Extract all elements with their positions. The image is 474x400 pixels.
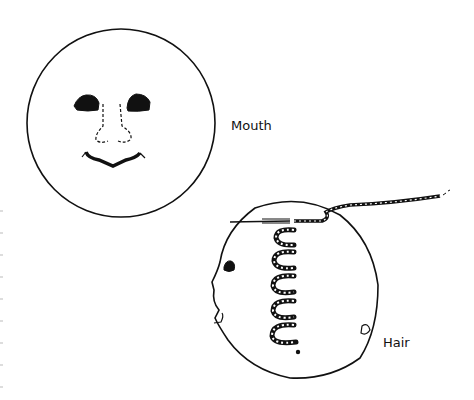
caption-hair: Hair	[383, 335, 410, 350]
side-head-figure	[212, 190, 450, 378]
nose-outline	[96, 104, 131, 142]
caption-mouth: Mouth	[231, 118, 272, 133]
scan-edge-artifact	[0, 200, 3, 400]
mouth-stitch	[86, 152, 140, 166]
right-eye-icon	[127, 94, 150, 111]
side-eye-icon	[224, 261, 235, 272]
needle-icon	[230, 221, 290, 222]
left-eye-icon	[74, 95, 99, 111]
ear-knot	[361, 325, 370, 334]
thread	[294, 196, 440, 221]
face-outline	[27, 29, 215, 217]
front-face-figure	[27, 29, 215, 217]
